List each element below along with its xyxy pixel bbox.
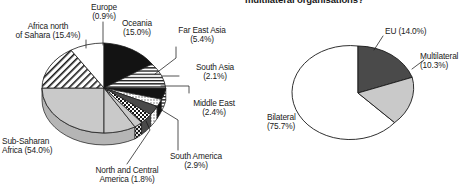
label-south-asia: South Asia (2.1%) [186,63,244,82]
left-slice-middle-east [104,88,161,106]
left-slice-wall-far-east-asia [161,89,165,112]
right-chart-title: multilateral organisations? [245,0,364,5]
leader-far-east-asia [155,47,176,74]
left-slice-north-central-america [104,88,151,123]
label-middle-east: Middle East (2.4%) [184,99,244,118]
label-oceania: Oceania (15.0%) [107,19,167,38]
left-slice-sub-saharan-africa-2 [104,88,135,133]
left-slice-oceania [104,43,152,88]
left-slice-wall-south-america [142,115,151,135]
label-eu: EU (14.0%) [385,27,455,36]
label-sub-saharan-africa: Sub-Saharan Africa (54.0%) [2,137,92,156]
left-slice-wall-south-asia [157,99,161,118]
right-slice-multilateral [358,77,414,122]
label-bilateral: Bilateral (75.7%) [267,113,325,132]
label-multilateral: Multilateral (10.3%) [420,52,466,71]
left-slice-wall-north-central-america [135,123,142,139]
leader-middle-east [161,86,189,93]
left-slice-africa-north-of-sahara [42,50,104,88]
left-slice-europe [71,43,104,88]
label-north-and-central-america: North and Central America (1.8%) [79,166,175,185]
leader-eu [374,36,383,50]
left-slice-wall-middle-east [151,106,158,126]
leader-north-central [127,121,150,164]
label-far-east-asia: Far East Asia (5.4%) [168,26,236,45]
left-slice-far-east-asia [104,64,166,89]
leader-south-america [155,106,178,150]
left-slice-south-america [104,88,157,115]
label-africa-north-of-sahara: Africa north of Sahara (15.4%) [0,22,96,41]
right-slice-eu [358,46,412,93]
left-slice-sub-saharan-africa [42,88,104,133]
left-slice-south-asia [104,88,166,99]
left-slice-sub-saharan-africa-3 [104,88,142,127]
two-pie-chart-figure: multilateral organisations? [0,0,467,192]
right-pie-leader-lines [374,36,424,69]
